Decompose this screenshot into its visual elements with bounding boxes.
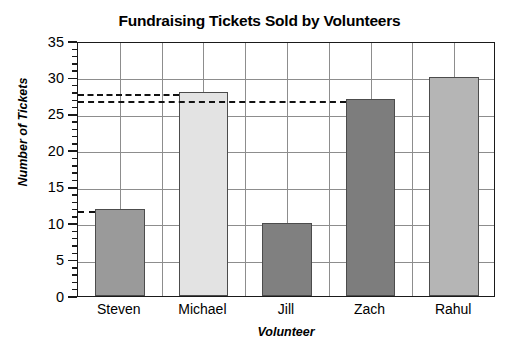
y-tick-major xyxy=(68,296,77,298)
y-tick-major xyxy=(68,223,77,225)
gridline-vertical xyxy=(412,43,413,296)
y-axis-title: Number of Tickets xyxy=(16,47,30,217)
gridline-vertical xyxy=(329,43,330,296)
bar-jill xyxy=(262,223,312,296)
y-tick-major xyxy=(68,78,77,80)
x-tick-label-michael: Michael xyxy=(161,301,245,317)
gridline-vertical xyxy=(245,43,246,296)
x-tick-label-rahul: Rahul xyxy=(411,301,495,317)
dashed-line-12 xyxy=(78,211,95,213)
plot-inner xyxy=(78,43,494,296)
bar-rahul xyxy=(429,77,479,296)
y-tick-major xyxy=(68,187,77,189)
dashed-line-27 xyxy=(78,101,346,103)
y-tick-major xyxy=(68,114,77,116)
y-tick-major xyxy=(68,260,77,262)
bar-michael xyxy=(179,92,229,296)
bar-chart: Fundraising Tickets Sold by Volunteers 0… xyxy=(0,0,519,358)
dashed-line-28 xyxy=(78,94,179,96)
y-tick-label: 5 xyxy=(20,253,64,268)
x-tick-label-steven: Steven xyxy=(77,301,161,317)
bar-steven xyxy=(95,209,145,296)
plot-area xyxy=(77,42,495,297)
bar-zach xyxy=(346,99,396,296)
gridline-vertical xyxy=(162,43,163,296)
y-tick-label: 0 xyxy=(20,290,64,305)
x-tick-label-zach: Zach xyxy=(328,301,412,317)
y-tick-major xyxy=(68,41,77,43)
chart-title: Fundraising Tickets Sold by Volunteers xyxy=(0,12,519,30)
x-axis-title: Volunteer xyxy=(77,325,495,339)
y-tick-major xyxy=(68,150,77,152)
y-tick-label: 10 xyxy=(20,217,64,232)
x-tick-label-jill: Jill xyxy=(244,301,328,317)
